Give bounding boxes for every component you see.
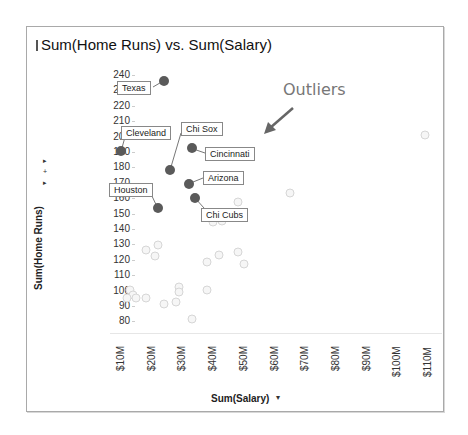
scatter-point[interactable]: [187, 315, 196, 324]
point-label: Chi Sox: [181, 122, 223, 136]
point-label: Cincinnati: [205, 147, 255, 161]
scatter-point[interactable]: [420, 130, 429, 139]
point-label: Chi Cubs: [201, 208, 248, 222]
outlier-point[interactable]: [187, 143, 197, 153]
scatter-point[interactable]: [233, 198, 242, 207]
scatter-point[interactable]: [159, 299, 168, 308]
point-label: Houston: [109, 183, 153, 197]
scatter-point[interactable]: [172, 298, 181, 307]
outlier-point[interactable]: [165, 165, 175, 175]
outlier-point[interactable]: [159, 76, 169, 86]
scatter-point[interactable]: [239, 259, 248, 268]
scatter-point[interactable]: [202, 258, 211, 267]
outlier-point[interactable]: [116, 146, 126, 156]
outlier-point[interactable]: [190, 193, 200, 203]
scatter-point[interactable]: [202, 286, 211, 295]
outlier-point[interactable]: [184, 179, 194, 189]
point-label: Texas: [117, 81, 151, 95]
scatter-point[interactable]: [150, 252, 159, 261]
scatter-point[interactable]: [175, 287, 184, 296]
outlier-point[interactable]: [153, 203, 163, 213]
scatter-point[interactable]: [141, 293, 150, 302]
scatter-point[interactable]: [141, 246, 150, 255]
scatter-point[interactable]: [215, 250, 224, 259]
scatter-point[interactable]: [123, 293, 132, 302]
scatter-point[interactable]: [233, 247, 242, 256]
point-label: Cleveland: [121, 126, 171, 140]
scatter-point[interactable]: [132, 293, 141, 302]
scatter-point[interactable]: [285, 189, 294, 198]
point-label: Arizona: [203, 171, 244, 185]
scatter-point[interactable]: [153, 241, 162, 250]
